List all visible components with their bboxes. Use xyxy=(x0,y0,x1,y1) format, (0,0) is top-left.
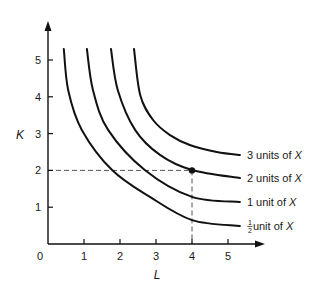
curve-label: 3 units of X xyxy=(247,149,303,161)
x-axis-title: L xyxy=(154,268,161,282)
curve-label-variable: X xyxy=(294,172,303,184)
highlight-point-marker xyxy=(189,167,195,173)
curve-label: 1 unit of X xyxy=(247,196,297,208)
chart-canvas: 12345123450LK unit of X121 unit of X2 un… xyxy=(0,0,316,293)
isoquant-curve xyxy=(111,49,240,178)
curve-label: 2 units of X xyxy=(247,172,303,184)
x-tick-label: 5 xyxy=(225,250,231,262)
x-tick-label: 1 xyxy=(81,250,87,262)
isoquant-chart: 12345123450LK unit of X121 unit of X2 un… xyxy=(0,0,316,293)
x-tick-label: 4 xyxy=(189,250,195,262)
isoquant-curve xyxy=(87,49,240,202)
x-tick-label: 3 xyxy=(153,250,159,262)
curve-labels: unit of X121 unit of X2 units of X3 unit… xyxy=(247,149,303,235)
isoquant-curve xyxy=(134,49,240,155)
y-tick-label: 3 xyxy=(35,128,41,140)
y-axis-title: K xyxy=(16,128,25,142)
curve-label-variable: X xyxy=(288,196,297,208)
x-axis-arrow-icon xyxy=(255,241,265,248)
curve-label-variable: X xyxy=(285,220,294,232)
curve-label-text: 2 units of xyxy=(247,172,295,184)
curve-label-text: 3 units of xyxy=(247,149,295,161)
curve-label-text: unit of xyxy=(253,220,286,232)
x-tick-label: 2 xyxy=(117,250,123,262)
curve-label-text: 1 unit of xyxy=(247,196,289,208)
origin-label: 0 xyxy=(37,250,43,262)
curve-label-variable: X xyxy=(294,149,303,161)
curve-label: unit of X xyxy=(253,220,294,232)
y-tick-label: 5 xyxy=(35,54,41,66)
dashed-guides xyxy=(48,170,192,244)
highlight-point xyxy=(189,167,195,173)
y-axis-arrow-icon xyxy=(45,21,52,31)
isoquant-curves xyxy=(64,49,240,226)
y-tick-label: 4 xyxy=(35,91,41,103)
fraction-numerator: 1 xyxy=(248,219,252,226)
y-tick-label: 1 xyxy=(35,201,41,213)
y-tick-label: 2 xyxy=(35,164,41,176)
axes xyxy=(45,21,266,248)
fraction-denominator: 2 xyxy=(248,227,252,234)
